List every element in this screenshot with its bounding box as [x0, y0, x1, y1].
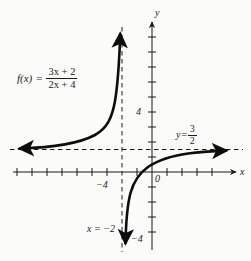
vasym-text: x = −2: [87, 223, 115, 234]
curve-right-branch: [126, 151, 227, 243]
function-lhs: f(x): [17, 73, 32, 84]
hasym-fraction: 3 2: [188, 124, 197, 146]
x-tick-label-zero: 0: [155, 174, 160, 184]
hasym-denominator: 2: [188, 136, 197, 147]
vertical-asymptote-label: x = −2: [87, 224, 115, 234]
rational-function-figure: f(x) = 3x + 2 2x + 4 y = 3 2 x = −2 −4 0…: [0, 0, 251, 261]
function-equation-label: f(x) = 3x + 2 2x + 4: [17, 66, 77, 91]
function-denominator: 2x + 4: [46, 79, 77, 91]
hasym-lhs: y: [176, 130, 180, 140]
y-axis-label: y: [155, 8, 159, 18]
hasym-equals: =: [181, 130, 187, 140]
y-tick-label-4: 4: [136, 107, 141, 117]
x-tick-label-neg-4: −4: [96, 180, 108, 190]
function-fraction: 3x + 2 2x + 4: [46, 66, 77, 91]
function-numerator: 3x + 2: [46, 66, 77, 79]
y-tick-label-neg-4: −4: [131, 234, 143, 244]
horizontal-asymptote-label: y = 3 2: [176, 124, 197, 146]
curve-left-branch: [20, 34, 120, 149]
graph-canvas: [0, 0, 251, 261]
x-axis-label: x: [240, 167, 244, 177]
hasym-numerator: 3: [188, 124, 197, 136]
function-equals: =: [34, 73, 44, 84]
